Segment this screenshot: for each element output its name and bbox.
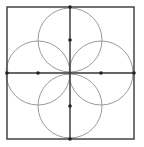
point-bottom-circle-center	[68, 104, 72, 108]
point-left-edge-midpoint	[5, 71, 9, 75]
point-bottom-edge-midpoint	[68, 137, 72, 141]
point-top-circle-center	[68, 38, 72, 42]
point-right-edge-midpoint	[132, 71, 136, 75]
geometric-diagram	[0, 0, 144, 147]
point-top-edge-midpoint	[68, 5, 72, 9]
point-left-circle-center	[36, 71, 40, 75]
point-right-circle-center	[99, 71, 103, 75]
